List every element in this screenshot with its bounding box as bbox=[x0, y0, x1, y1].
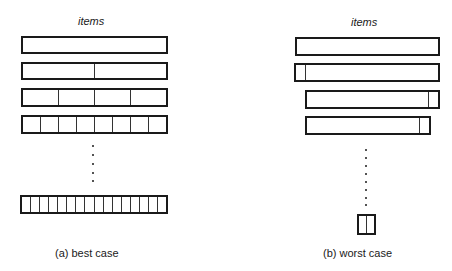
worst-row-split-right bbox=[305, 90, 440, 109]
panel-b-items-label: items bbox=[351, 16, 377, 28]
caption-worst-case: (b) worst case bbox=[323, 247, 392, 259]
final-two-item-box bbox=[357, 214, 376, 235]
worst-row-split-left bbox=[294, 63, 440, 82]
panel-a-items-label: items bbox=[78, 15, 104, 27]
array-row-8-segments bbox=[21, 115, 168, 134]
array-row-1-segment bbox=[21, 36, 168, 54]
worst-row-split-right-2 bbox=[305, 116, 431, 135]
array-row-16-segments bbox=[20, 195, 168, 214]
worst-row-full bbox=[295, 37, 440, 56]
array-row-2-segments bbox=[21, 62, 168, 80]
array-row-4-segments bbox=[21, 88, 168, 107]
caption-best-case: (a) best case bbox=[55, 247, 119, 259]
segment bbox=[23, 38, 166, 52]
